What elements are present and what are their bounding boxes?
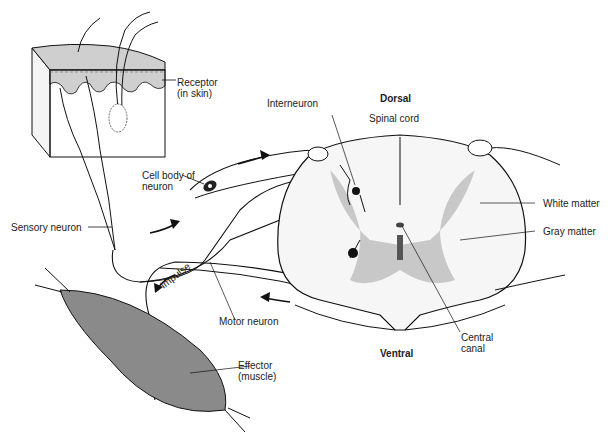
white-matter-label: White matter [543,198,600,209]
motor-neuron-label: Motor neuron [219,316,278,327]
dorsal-label: Dorsal [380,93,411,104]
sensory-neuron-label: Sensory neuron [11,222,82,233]
spinal-cord-label: Spinal cord [369,113,419,124]
interneuron-label: Interneuron [267,98,318,109]
spinal-cord-cross-section [278,115,565,332]
skin-block [32,12,176,250]
gray-matter-label: Gray matter [543,226,596,237]
ventral-label: Ventral [380,348,413,359]
effector-label: Effector(muscle) [238,360,276,382]
central-canal-label: Centralcanal [461,332,493,354]
cell-body-label: Cell body ofneuron [142,170,195,192]
receptor-label: Receptor(in skin) [177,77,218,99]
muscle-effector [35,268,250,432]
reflex-arc-diagram [0,0,611,438]
